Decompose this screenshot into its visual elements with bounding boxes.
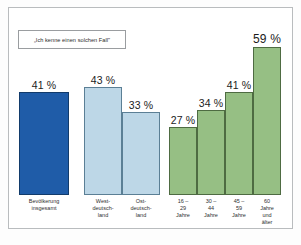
bar-age-45-59: 41 % 45 – 59 Jahre <box>225 92 253 195</box>
bar-westdeutschland: 43 % West- deutsch- land <box>84 87 122 195</box>
chart-figure: „Ich kenne einen solchen Fall" 41 % Bevö… <box>0 0 301 245</box>
bar-bevoelkerung-insgesamt: 41 % Bevölkerung insgesamt <box>19 92 69 195</box>
bar-label-bevoelkerung-insgesamt: Bevölkerung insgesamt <box>29 198 60 212</box>
bar-label-age-60-plus: 60 Jahre und älter <box>260 198 274 226</box>
bar-label-ostdeutschland: Ost- deutsch- land <box>130 198 151 219</box>
bar-label-age-45-59: 45 – 59 Jahre <box>232 198 246 219</box>
bar-value-age-60-plus: 59 % <box>253 32 281 46</box>
bar-value-age-16-29: 27 % <box>171 114 196 126</box>
bar-value-westdeutschland: 43 % <box>91 74 116 86</box>
bar-value-age-45-59: 41 % <box>227 79 252 91</box>
bar-value-age-30-44: 34 % <box>199 97 224 109</box>
bar-ostdeutschland: 33 % Ost- deutsch- land <box>122 112 160 195</box>
bar-age-60-plus: 59 % 60 Jahre und älter <box>253 47 281 195</box>
bar-age-16-29: 27 % 16 – 29 Jahre <box>169 127 197 195</box>
bar-age-30-44: 34 % 30 – 44 Jahre <box>197 110 225 195</box>
bar-label-age-16-29: 16 – 29 Jahre <box>176 198 190 219</box>
plot-area: 41 % Bevölkerung insgesamt 43 % West- de… <box>0 0 301 245</box>
bar-label-westdeutschland: West- deutsch- land <box>92 198 113 219</box>
bar-label-age-30-44: 30 – 44 Jahre <box>204 198 218 219</box>
bar-value-ostdeutschland: 33 % <box>129 99 154 111</box>
bar-value-bevoelkerung-insgesamt: 41 % <box>32 79 57 91</box>
